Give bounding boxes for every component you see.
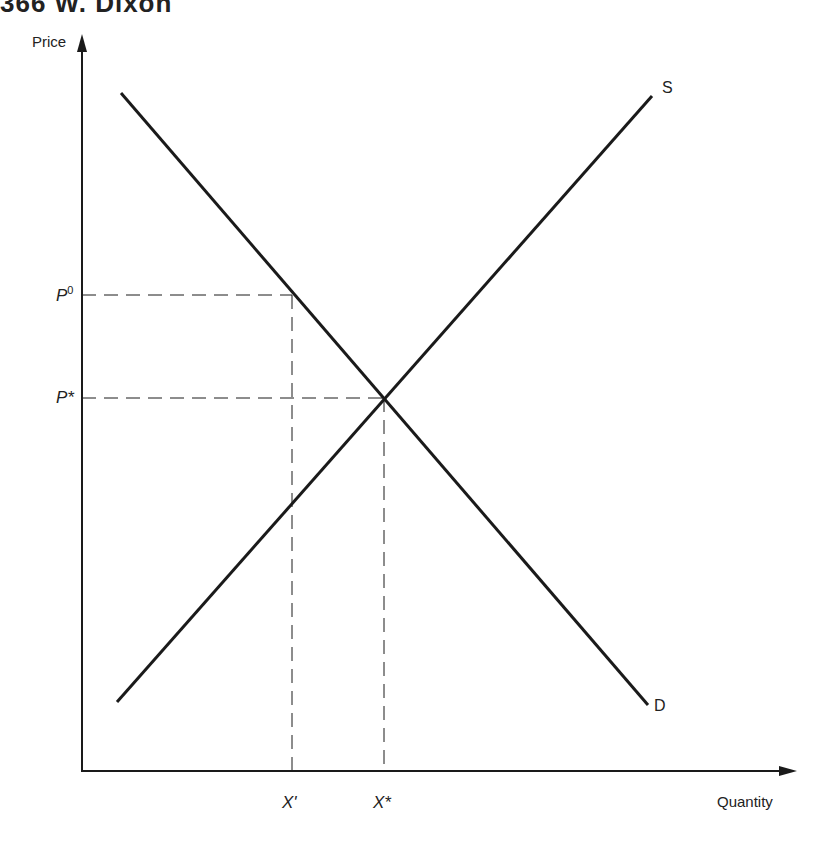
y-axis-arrow-icon bbox=[77, 34, 87, 52]
pstar-label: P* bbox=[56, 388, 74, 408]
xstar-label: X* bbox=[373, 793, 391, 813]
p0-base: P bbox=[56, 286, 67, 305]
demand-label: D bbox=[654, 697, 666, 715]
p0-superscript: 0 bbox=[67, 284, 73, 296]
demand-curve bbox=[121, 93, 648, 705]
price-axis-label: Price bbox=[32, 33, 66, 50]
supply-label: S bbox=[662, 79, 673, 97]
p0-label: P0 bbox=[56, 284, 73, 306]
quantity-axis-label: Quantity bbox=[717, 793, 773, 810]
xprime-label: X' bbox=[282, 793, 297, 813]
x-axis-arrow-icon bbox=[779, 766, 797, 776]
supply-demand-diagram bbox=[0, 0, 830, 842]
